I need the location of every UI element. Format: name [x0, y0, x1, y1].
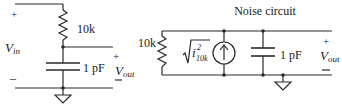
circuit-diagram: + Vin – 10k 1 pF + Vout Noise circuit 10… [0, 0, 342, 108]
output-plus-sign: + [113, 50, 119, 62]
current-source-icon [213, 42, 235, 64]
noise-ground-icon [275, 75, 291, 90]
noise-current-label: i 2 10k [183, 40, 210, 63]
vin-label: Vin [5, 40, 20, 56]
noise-capacitor-label: 1 pF [280, 48, 302, 62]
svg-text:2: 2 [197, 43, 201, 52]
vout-label: Vout [115, 63, 135, 79]
noise-capacitor-1pf-icon [251, 48, 275, 56]
capacitor-label: 1 pF [83, 61, 105, 75]
noise-circuit-title: Noise circuit [234, 4, 296, 18]
noise-vout-label: Vout [320, 48, 340, 64]
noise-output-plus-sign: + [323, 35, 329, 47]
resistor-10k-icon [59, 10, 67, 40]
svg-text:10k: 10k [196, 54, 208, 63]
input-minus-sign: – [9, 71, 17, 85]
noise-circuit: Noise circuit 10k i 2 10k [138, 4, 340, 90]
capacitor-1pf-icon [46, 63, 80, 70]
input-plus-sign: + [11, 8, 17, 20]
noise-resistor-label: 10k [138, 36, 156, 50]
noise-resistor-10k-icon [158, 36, 166, 67]
left-rc-circuit: + Vin – 10k 1 pF + Vout [5, 4, 135, 103]
ground-icon [55, 88, 71, 103]
resistor-label: 10k [77, 22, 95, 36]
